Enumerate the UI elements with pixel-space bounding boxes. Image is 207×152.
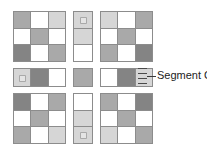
grid-cell [31, 12, 47, 28]
grid-cell [31, 29, 47, 45]
leader-tick [138, 83, 147, 84]
grid-cell [31, 127, 47, 143]
grid-cell [31, 69, 47, 86]
grid-cell [74, 12, 92, 28]
grid-cell [49, 12, 65, 28]
leader-tick [138, 68, 147, 69]
grid-cell [118, 29, 134, 45]
grid-cell [136, 94, 152, 110]
top-center-strip [73, 11, 93, 62]
bottom-left-grid [13, 93, 66, 144]
grid-cell [31, 111, 47, 127]
grid-cell [74, 127, 92, 143]
grid-cell [101, 45, 117, 61]
segment-c-callout: Segment C [138, 66, 207, 88]
grid-cell [118, 94, 134, 110]
grid-cell [49, 94, 65, 110]
grid-cell [118, 111, 134, 127]
bottom-right-grid [100, 93, 153, 144]
grid-cell [101, 29, 117, 45]
grid-cell [74, 111, 92, 127]
grid-cell [136, 127, 152, 143]
grid-cell [101, 94, 117, 110]
grid-cell [74, 94, 92, 110]
top-right-grid [100, 11, 153, 62]
grid-cell [14, 45, 30, 61]
segment-c-label: Segment C [157, 68, 207, 83]
grid-cell [14, 12, 30, 28]
leader-tick [138, 73, 147, 74]
grid-cell [49, 45, 65, 61]
grid-cell [49, 29, 65, 45]
grid-cell [74, 45, 92, 61]
grid-cell [101, 69, 117, 86]
grid-cell [14, 69, 30, 86]
grid-cell [136, 111, 152, 127]
bottom-center-strip [73, 93, 93, 144]
grid-cell [118, 127, 134, 143]
grid-cell [101, 127, 117, 143]
leader-line [147, 76, 156, 77]
middle-center-cell [73, 68, 93, 87]
grid-cell [118, 69, 134, 86]
grid-cell [101, 111, 117, 127]
grid-cell [118, 45, 134, 61]
top-left-grid [13, 11, 66, 62]
grid-cell [31, 45, 47, 61]
grid-cell [31, 94, 47, 110]
grid-cell [14, 29, 30, 45]
grid-cell [49, 127, 65, 143]
grid-cell [14, 94, 30, 110]
grid-cell [118, 12, 134, 28]
grid-cell [14, 127, 30, 143]
grid-cell [74, 69, 92, 86]
grid-cell [136, 45, 152, 61]
segment-diagram: Segment C [0, 0, 207, 152]
leader-tick [138, 78, 147, 79]
middle-left-strip [13, 68, 66, 87]
grid-cell [101, 12, 117, 28]
grid-cell [136, 29, 152, 45]
grid-cell [14, 111, 30, 127]
grid-cell [136, 12, 152, 28]
grid-cell [74, 29, 92, 45]
grid-cell [49, 111, 65, 127]
grid-cell [49, 69, 65, 86]
